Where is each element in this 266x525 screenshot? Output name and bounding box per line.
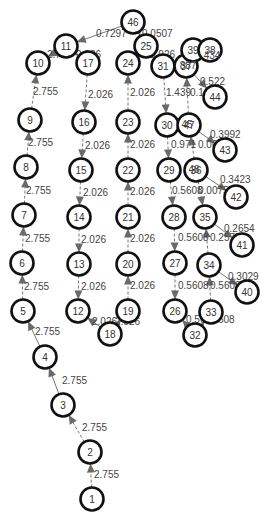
- graph-node-11[interactable]: 11: [55, 35, 78, 58]
- node-label: 19: [122, 306, 134, 317]
- edge-weight-label: 2.755: [94, 469, 119, 480]
- graph-node-9[interactable]: 9: [19, 109, 42, 132]
- edge-weight-label: 0.5608: [178, 232, 209, 243]
- node-label: 40: [241, 287, 253, 298]
- graph-node-20[interactable]: 20: [117, 253, 140, 276]
- graph-node-14[interactable]: 14: [68, 206, 91, 229]
- edge-weight-label: 2.026: [83, 187, 108, 198]
- graph-node-34[interactable]: 34: [198, 254, 221, 277]
- node-label: 35: [199, 212, 211, 223]
- graph-node-25[interactable]: 25: [135, 35, 158, 58]
- arrowhead-icon: [31, 74, 39, 83]
- edge-weight-label: 2.755: [33, 86, 58, 97]
- overlapping-node-label: 48: [188, 164, 200, 175]
- node-label: 32: [189, 330, 201, 341]
- graph-node-42[interactable]: 42: [225, 186, 248, 209]
- node-label: 11: [61, 41, 72, 52]
- node-label: 20: [122, 259, 134, 270]
- node-label: 26: [169, 306, 181, 317]
- graph-node-8[interactable]: 8: [15, 156, 38, 179]
- node-label: 41: [236, 240, 248, 251]
- edge-weight-label: 0.7297: [96, 28, 127, 39]
- edge-weight-label: 2.026: [130, 186, 155, 197]
- node-label: 23: [122, 117, 134, 128]
- graph-node-15[interactable]: 15: [70, 159, 93, 182]
- graph-node-17[interactable]: 17: [77, 52, 100, 75]
- arrowhead-icon: [168, 196, 176, 205]
- node-label: 16: [78, 117, 90, 128]
- graph-node-33[interactable]: 33: [200, 301, 223, 324]
- edge-weight-label: 1.439: [166, 87, 191, 98]
- overlapping-node-label: 45: [181, 119, 193, 130]
- graph-node-5[interactable]: 5: [12, 300, 35, 323]
- graph-node-43[interactable]: 43: [214, 139, 237, 162]
- node-label: 6: [19, 258, 25, 269]
- node-label: 33: [205, 307, 217, 318]
- edge-weight-label: 2.026: [130, 233, 155, 244]
- graph-node-35[interactable]: 35: [194, 206, 217, 229]
- graph-node-44[interactable]: 44: [204, 86, 227, 109]
- graph-node-21[interactable]: 21: [117, 206, 140, 229]
- node-label: 34: [203, 260, 215, 271]
- graph-node-6[interactable]: 6: [11, 252, 34, 275]
- graph-node-19[interactable]: 19: [117, 300, 140, 323]
- node-label: 28: [168, 212, 180, 223]
- node-label: 8: [23, 162, 29, 173]
- node-label: 25: [140, 41, 152, 52]
- edge-weight-label: 0.5608: [178, 280, 209, 291]
- graph-node-40[interactable]: 40: [236, 281, 259, 304]
- node-label: 10: [32, 58, 44, 69]
- graph-node-4[interactable]: 4: [34, 346, 57, 369]
- node-label: 5: [20, 306, 26, 317]
- node-label: 43: [219, 145, 231, 156]
- edge-weight-label: 2.755: [24, 281, 49, 292]
- node-label: 1: [89, 494, 95, 505]
- graph-node-16[interactable]: 16: [73, 111, 96, 134]
- arrowhead-icon: [171, 291, 179, 300]
- graph-node-31[interactable]: 31: [152, 55, 175, 78]
- edge-weight-label: 2.026: [85, 140, 110, 151]
- graph-node-26[interactable]: 26: [164, 300, 187, 323]
- edge-weight-label: 2.026: [81, 234, 106, 245]
- graph-node-2[interactable]: 2: [79, 441, 102, 464]
- node-label: 42: [230, 192, 242, 203]
- node-label: 46: [127, 17, 139, 28]
- node-label: 4: [42, 352, 48, 363]
- graph-node-1[interactable]: 1: [81, 488, 104, 511]
- graph-node-18[interactable]: 18: [99, 323, 122, 346]
- edge-weight-label: 2.026: [130, 280, 155, 291]
- graph-node-41[interactable]: 41: [231, 234, 254, 257]
- arrowhead-icon: [162, 104, 170, 113]
- node-label: 24: [122, 58, 134, 69]
- graph-node-30[interactable]: 30: [156, 114, 179, 137]
- graph-node-22[interactable]: 22: [117, 159, 140, 182]
- node-label: 2: [87, 447, 93, 458]
- node-label: 29: [163, 165, 175, 176]
- edge-weight-label: 2.026: [81, 281, 106, 292]
- arrowhead-icon: [171, 242, 179, 251]
- node-label: 21: [122, 212, 134, 223]
- graph-node-23[interactable]: 23: [117, 111, 140, 134]
- edge-weight-label: 0.971: [171, 139, 196, 150]
- graph-node-24[interactable]: 24: [117, 52, 140, 75]
- node-label: 18: [104, 329, 116, 340]
- graph-node-13[interactable]: 13: [68, 253, 91, 276]
- graph-node-10[interactable]: 10: [27, 52, 50, 75]
- graph-node-3[interactable]: 3: [52, 394, 75, 417]
- graph-node-29[interactable]: 29: [158, 159, 181, 182]
- graph-canvas: 2.7552.7552.7552.7552.7552.7552.7552.755…: [0, 0, 266, 525]
- graph-node-32[interactable]: 32: [184, 324, 207, 347]
- graph-node-7[interactable]: 7: [13, 204, 36, 227]
- arrowhead-icon: [48, 368, 55, 378]
- edge-weight-label: 2.755: [62, 375, 87, 386]
- graph-node-46[interactable]: 46: [122, 11, 145, 34]
- graph-node-28[interactable]: 28: [163, 206, 186, 229]
- graph-node-12[interactable]: 12: [67, 300, 90, 323]
- node-label: 17: [82, 58, 94, 69]
- overlapping-node-label: 434: [204, 50, 221, 61]
- edge-weight-label: 2.755: [26, 185, 51, 196]
- arrowhead-icon: [77, 35, 87, 43]
- node-label: 7: [21, 210, 27, 221]
- graph-node-27[interactable]: 27: [164, 252, 187, 275]
- edge-weight-label: 0.3423: [220, 174, 251, 185]
